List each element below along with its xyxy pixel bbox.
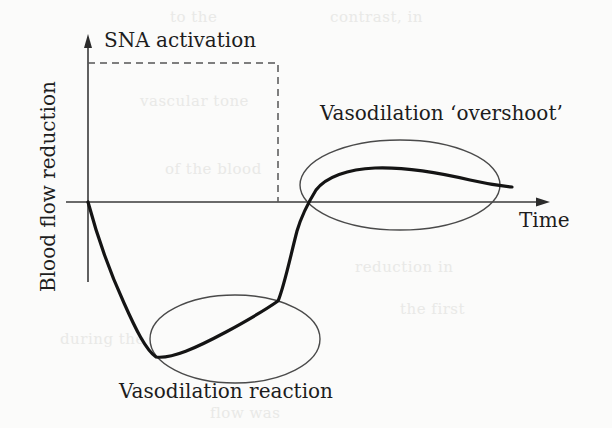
ellipse-vasodilation-overshoot [300,140,500,230]
y-axis [84,34,92,282]
figure-page: to the contrast, in vascular tone of the… [0,0,612,428]
ellipse-vasodilation-reaction [150,295,320,383]
x-axis-label: Time [519,208,570,232]
vasodilation-overshoot-label: Vasodilation ‘overshoot’ [320,101,563,125]
y-axis-label: Blood flow reduction [36,92,60,292]
sna-activation-pulse [88,63,278,202]
sna-activation-label: SNA activation [104,28,256,52]
vasodilation-reaction-label: Vasodilation reaction [119,379,333,403]
